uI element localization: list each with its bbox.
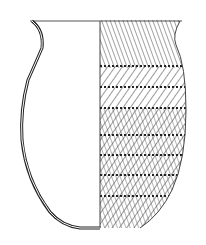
profile-wall <box>22 21 100 228</box>
vessel-drawing <box>0 0 206 245</box>
exterior-decoration <box>100 20 190 231</box>
profile-wall-inner <box>22 21 100 228</box>
